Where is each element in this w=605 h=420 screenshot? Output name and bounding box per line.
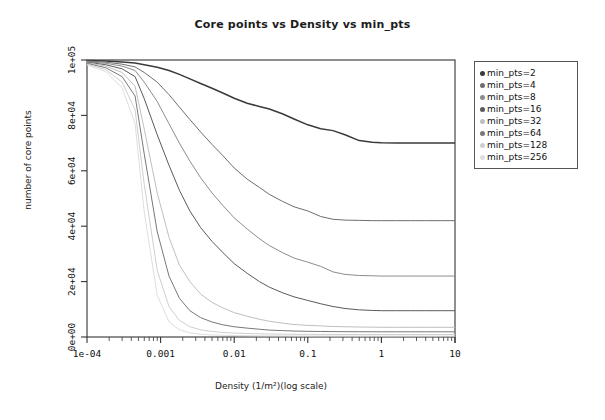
legend-item[interactable]: min_pts=32 <box>480 115 573 127</box>
series-line-min-pts-2 <box>87 61 455 144</box>
y-tick-label: 8e+04 <box>66 101 77 130</box>
x-tick-label: 1 <box>379 348 385 359</box>
x-tick-label: 0.001 <box>146 348 175 359</box>
legend-marker-dot-icon <box>480 107 485 112</box>
chart-container: Core points vs Density vs min_pts number… <box>0 0 605 420</box>
legend-item-label: min_pts=4 <box>487 79 536 91</box>
legend-marker-dot-icon <box>480 155 485 160</box>
legend-item[interactable]: min_pts=16 <box>480 103 573 115</box>
x-tick-label: 0.01 <box>223 348 246 359</box>
x-tick-label: 10 <box>449 348 461 359</box>
y-tick-label: 0e+00 <box>66 322 77 351</box>
x-tick-label: 1e-04 <box>73 348 102 359</box>
series-group <box>87 61 455 337</box>
legend-marker-dot-icon <box>480 71 485 76</box>
legend-marker-dot-icon <box>480 143 485 148</box>
legend-item[interactable]: min_pts=8 <box>480 91 573 103</box>
series-line-min-pts-16 <box>87 62 455 310</box>
legend-item-label: min_pts=128 <box>487 139 547 151</box>
legend-marker-dot-icon <box>480 95 485 100</box>
legend-item[interactable]: min_pts=4 <box>480 79 573 91</box>
x-tick-label: 0.1 <box>299 348 316 359</box>
series-line-min-pts-64 <box>87 63 455 331</box>
legend: min_pts=2min_pts=4min_pts=8min_pts=16min… <box>474 61 578 169</box>
legend-marker-dot-icon <box>480 83 485 88</box>
y-tick-label: 6e+04 <box>66 156 77 185</box>
series-line-min-pts-128 <box>87 64 455 334</box>
legend-item-label: min_pts=32 <box>487 115 541 127</box>
legend-item[interactable]: min_pts=2 <box>480 67 573 79</box>
y-tick-label: 4e+04 <box>66 212 77 241</box>
legend-item[interactable]: min_pts=256 <box>480 151 573 163</box>
legend-item[interactable]: min_pts=64 <box>480 127 573 139</box>
legend-marker-dot-icon <box>480 131 485 136</box>
series-line-min-pts-256 <box>87 65 455 336</box>
legend-item-label: min_pts=256 <box>487 151 547 163</box>
y-tick-label: 1e+05 <box>66 46 77 75</box>
legend-marker-dot-icon <box>480 119 485 124</box>
y-tick-label: 2e+04 <box>66 267 77 296</box>
legend-item[interactable]: min_pts=128 <box>480 139 573 151</box>
legend-item-label: min_pts=8 <box>487 91 536 103</box>
legend-item-label: min_pts=16 <box>487 103 541 115</box>
plot-frame <box>87 60 455 337</box>
legend-item-label: min_pts=2 <box>487 67 536 79</box>
x-axis-title: Density (1/m²)(log scale) <box>87 381 455 391</box>
legend-item-label: min_pts=64 <box>487 127 541 139</box>
